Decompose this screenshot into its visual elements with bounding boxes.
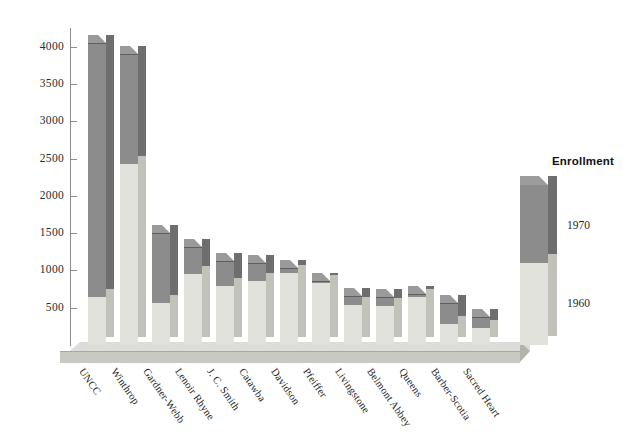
bar-top-face (376, 289, 394, 297)
bar-top-face (248, 255, 266, 263)
x-axis-label: Davidson (269, 366, 302, 407)
bar-column (440, 303, 458, 345)
bar-column (184, 247, 202, 345)
bar-segment-1960-side (170, 295, 178, 337)
legend-sample-bar (520, 185, 548, 345)
legend-segment-1960 (520, 263, 548, 345)
y-tick-label: 2000 (40, 189, 64, 201)
bar-column (216, 261, 234, 345)
y-tick-label: 2500 (40, 152, 64, 164)
bar-top-face (216, 253, 234, 261)
y-tick-label-wrap: 1500 (0, 226, 64, 238)
x-axis-label: Pfeiffer (301, 366, 329, 400)
bar-segment-1960 (248, 281, 266, 345)
bar-segment-1960 (312, 283, 330, 345)
bar-segment-1970 (472, 317, 490, 328)
bar-segment-1970-side (394, 289, 402, 298)
y-tick-4000 (70, 47, 77, 48)
bar-segment-1970 (248, 263, 266, 281)
bar-column (472, 317, 490, 345)
bar-segment-1970 (376, 297, 394, 306)
y-tick-label: 3000 (40, 114, 64, 126)
y-axis-line (70, 28, 71, 346)
y-tick-label-wrap: 2500 (0, 152, 64, 164)
bar-segment-1960-side (490, 320, 498, 337)
y-tick-2000 (70, 196, 77, 197)
bar-segment-1960-side (394, 298, 402, 337)
y-tick-label-wrap: 4000 (0, 40, 64, 52)
bar-segment-1970-side (234, 253, 242, 278)
bar-segment-1960 (440, 324, 458, 345)
legend-segment-1970-side (548, 176, 557, 254)
plinth-top-face (70, 342, 530, 351)
bar-segment-1970-side (202, 239, 210, 267)
bar-top-face (280, 260, 298, 268)
bar-top-face (440, 295, 458, 303)
y-tick-label-wrap: 1000 (0, 263, 64, 275)
bar-top-face (184, 239, 202, 247)
y-tick-label-wrap: 3000 (0, 114, 64, 126)
legend-segment-1970 (520, 185, 548, 263)
bar-segment-1960 (472, 328, 490, 345)
bar-segment-1960 (344, 305, 362, 345)
bar-segment-1960-side (106, 289, 114, 337)
bar-segment-1960 (280, 273, 298, 345)
bar-column (152, 233, 170, 345)
bar-segment-1970-side (106, 35, 114, 289)
bar-column (344, 296, 362, 345)
y-tick-label: 1000 (40, 263, 64, 275)
y-tick-1500 (70, 233, 77, 234)
bar-segment-1970-side (362, 288, 370, 298)
bar-segment-1960 (88, 297, 106, 345)
bar-column (248, 263, 266, 345)
bar-top-face (408, 286, 426, 294)
y-tick-label: 3500 (40, 77, 64, 89)
bar-segment-1960-side (138, 156, 146, 337)
bar-column (280, 268, 298, 345)
enrollment-bar-chart: 5001000150020002500300035004000 UNCCWint… (0, 0, 639, 448)
bar-segment-1970 (440, 303, 458, 324)
x-axis-label: Queens (397, 366, 425, 399)
y-tick-label-wrap: 2000 (0, 189, 64, 201)
bar-column (88, 43, 106, 345)
bar-segment-1970 (216, 261, 234, 286)
bar-segment-1960-side (298, 265, 306, 337)
bar-segment-1970-side (490, 309, 498, 320)
y-tick-500 (70, 308, 77, 309)
legend-title: Enrollment (552, 155, 614, 167)
x-axis-label: Catawba (237, 366, 268, 404)
bar-segment-1960 (152, 303, 170, 345)
y-tick-label: 500 (46, 301, 64, 313)
plinth-right-face (520, 342, 530, 362)
bar-top-face (312, 273, 330, 281)
bar-segment-1970 (344, 296, 362, 306)
legend-label-1960: 1960 (567, 297, 590, 309)
bar-segment-1960-side (362, 297, 370, 337)
bar-segment-1960 (376, 306, 394, 345)
bar-segment-1960-side (266, 273, 274, 337)
legend-label-1970: 1970 (567, 219, 590, 231)
bar-column (120, 54, 138, 345)
bar-segment-1960-side (458, 316, 466, 337)
bar-top-face (88, 35, 106, 43)
bar-column (408, 294, 426, 345)
y-tick-2500 (70, 159, 77, 160)
bar-segment-1960-side (330, 275, 338, 337)
bar-top-face (344, 288, 362, 296)
bar-segment-1960 (408, 297, 426, 345)
x-axis-label: UNCC (77, 366, 103, 397)
bar-segment-1970-side (170, 225, 178, 295)
y-tick-1000 (70, 270, 77, 271)
bar-segment-1970 (152, 233, 170, 303)
legend-bar-top-face (520, 176, 548, 185)
bar-segment-1960-side (202, 266, 210, 337)
legend-segment-1960-side (548, 254, 557, 336)
bar-segment-1960 (184, 274, 202, 345)
bar-segment-1970-side (266, 255, 274, 273)
bar-top-face (472, 309, 490, 317)
bar-segment-1970 (184, 247, 202, 275)
y-tick-label: 1500 (40, 226, 64, 238)
x-axis-label: Winthrop (109, 366, 142, 406)
bar-segment-1970 (88, 43, 106, 297)
y-tick-3500 (70, 84, 77, 85)
